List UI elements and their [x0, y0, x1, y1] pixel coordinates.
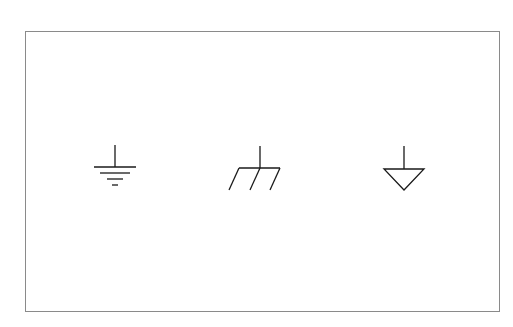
- signal-ground-icon: [360, 140, 430, 200]
- earth-ground-icon: [80, 140, 150, 200]
- chassis-ground-icon: [220, 140, 290, 200]
